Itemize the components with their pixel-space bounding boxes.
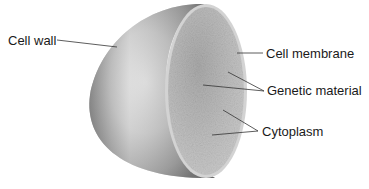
cell-membrane-label: Cell membrane bbox=[266, 47, 354, 60]
cell-diagram: Cell wall Cell membrane Genetic material… bbox=[0, 0, 369, 189]
cell-wall-leader bbox=[57, 40, 117, 47]
cut-face-shape bbox=[165, 4, 247, 178]
cytoplasm-label: Cytoplasm bbox=[262, 125, 323, 138]
genetic-material-label: Genetic material bbox=[267, 84, 362, 97]
cell-wall-label: Cell wall bbox=[8, 34, 56, 47]
